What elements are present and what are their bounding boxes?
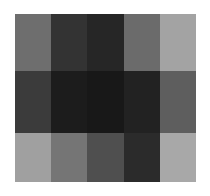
heatmap-cell [87, 71, 123, 133]
figure-canvas [0, 0, 210, 196]
heatmap-cell [51, 71, 87, 133]
heatmap-cell [160, 14, 196, 71]
heatmap-cell [160, 133, 196, 182]
heatmap-cell [15, 133, 51, 182]
heatmap-cell [124, 14, 160, 71]
heatmap-cell [160, 71, 196, 133]
heatmap-cell [15, 71, 51, 133]
heatmap-grid [15, 14, 196, 182]
heatmap-cell [51, 14, 87, 71]
heatmap-cell [15, 14, 51, 71]
heatmap-cell [87, 133, 123, 182]
heatmap-cell [51, 133, 87, 182]
heatmap-cell [124, 133, 160, 182]
heatmap-cell [124, 71, 160, 133]
heatmap-cell [87, 14, 123, 71]
